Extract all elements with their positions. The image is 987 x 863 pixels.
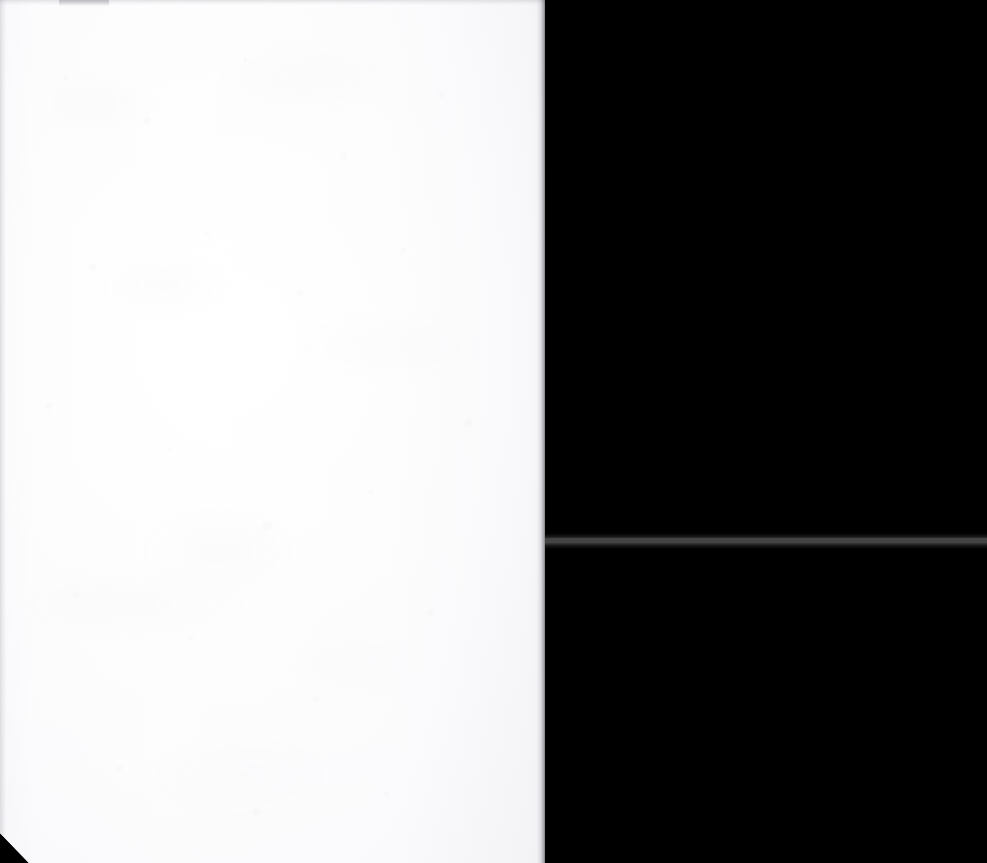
- paper-sheet: [0, 0, 545, 863]
- paper-shading: [0, 0, 545, 863]
- paper-left-edge-shadow: [0, 0, 6, 863]
- paper-mottle-texture: [0, 0, 545, 863]
- top-edge-smudge: [59, 0, 109, 7]
- paper-grain-texture: [0, 0, 545, 863]
- paper-right-edge-shadow: [537, 0, 545, 863]
- paper-top-edge-shadow: [0, 0, 545, 5]
- scan-canvas: Blank white paper sheet photographed aga…: [0, 0, 987, 863]
